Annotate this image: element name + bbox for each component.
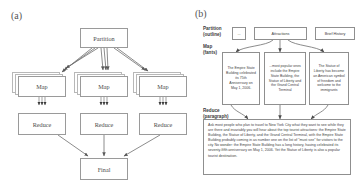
panel-a-mapreduce-diagram: (a) Parti <box>0 0 181 193</box>
node-map-2[interactable]: Map <box>80 76 128 97</box>
panel-b-worked-example: (b) Partition (outline) Map (fants) Redu… <box>181 0 362 193</box>
map-box-most-popular[interactable]: ...most popular ones include the Empire … <box>264 52 306 105</box>
top-box-ellipsis[interactable]: ... <box>232 27 246 40</box>
node-reduce-1[interactable]: Reduce <box>18 113 66 135</box>
row-label-partition-line2: (outline) <box>203 32 222 38</box>
node-map-1[interactable]: Map <box>18 76 66 97</box>
top-box-brief-history[interactable]: Brief History <box>315 27 355 40</box>
node-map-3[interactable]: Map <box>139 76 187 97</box>
row-label-map-line2: (fants) <box>203 50 217 56</box>
node-partition[interactable]: Partition <box>80 28 128 48</box>
node-reduce-3[interactable]: Reduce <box>139 113 187 135</box>
row-label-map: Map (fants) <box>203 44 217 55</box>
top-box-attractions[interactable]: Attractions <box>254 27 307 40</box>
row-label-reduce: Reduce (paragraph) <box>203 108 229 119</box>
row-label-partition: Partition (outline) <box>203 26 222 37</box>
reduce-paragraph-box[interactable]: Ask most people who plan to travel to Ne… <box>203 119 351 175</box>
map-box-statue-of-liberty[interactable]: The Statue of Liberty has become an Amer… <box>309 52 349 105</box>
map-box-empire-state[interactable]: The Empire State Building celebrated its… <box>222 52 260 105</box>
node-reduce-2[interactable]: Reduce <box>80 113 128 135</box>
node-final[interactable]: Final <box>80 158 128 180</box>
row-label-partition-line1: Partition <box>203 26 222 32</box>
